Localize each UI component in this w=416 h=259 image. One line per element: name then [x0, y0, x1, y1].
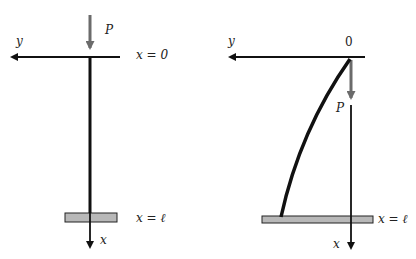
right-panel: y 0 P x = ℓ x — [227, 34, 407, 251]
base-plate — [65, 213, 117, 222]
x-axis-label: x — [100, 233, 107, 247]
y-axis-label: y — [227, 34, 235, 48]
load-label: P — [104, 23, 114, 37]
origin-label: 0 — [345, 35, 353, 49]
base-plate — [262, 216, 373, 223]
x-axis-label: x — [333, 237, 340, 251]
deflected-column — [281, 59, 350, 217]
load-label: P — [335, 101, 345, 115]
left-panel: y P x = 0 x = ℓ x — [12, 15, 168, 247]
bottom-boundary-label: x = ℓ — [136, 211, 165, 225]
bottom-boundary-label: x = ℓ — [378, 212, 407, 226]
y-axis-label: y — [15, 34, 23, 48]
buckling-diagram: y P x = 0 x = ℓ x y 0 P x = ℓ x — [0, 0, 416, 259]
top-boundary-label: x = 0 — [136, 48, 168, 62]
